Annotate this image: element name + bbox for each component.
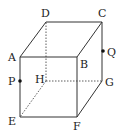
solid-edges [20, 22, 102, 117]
point-label-q: Q [107, 46, 116, 59]
vertex-label-f: F [73, 120, 81, 133]
vertex-label-b: B [80, 58, 88, 71]
edge-da [20, 22, 46, 57]
vertex-label-d: D [41, 7, 50, 20]
edge-bc [77, 22, 102, 57]
vertex-label-a: A [7, 51, 17, 64]
vertex-label-g: G [105, 76, 114, 89]
point-q-dot [101, 49, 105, 53]
vertex-label-e: E [8, 115, 16, 128]
hidden-edges [20, 22, 102, 117]
point-p-dot [18, 79, 22, 83]
marked-points [18, 49, 105, 83]
cube-diagram: ABCDEFGHPQ [0, 0, 123, 135]
vertex-label-c: C [98, 7, 106, 20]
point-label-p: P [8, 75, 16, 88]
vertex-label-h: H [35, 73, 45, 86]
hidden-edge-he [20, 81, 46, 117]
edge-fg [77, 81, 102, 117]
